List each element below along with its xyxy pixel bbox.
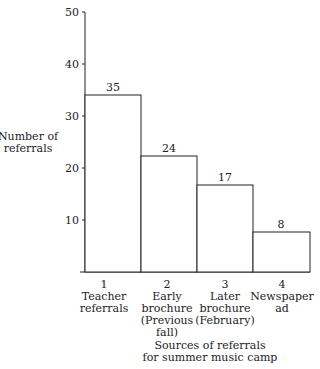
bar-teacher-referrals xyxy=(85,95,141,272)
bar-chart: 50 40 30 20 10 Number of referrals 35 24… xyxy=(0,0,320,369)
y-tick-label: 30 xyxy=(65,110,79,123)
category-label-2: 2 Early brochure (Previous fall) xyxy=(141,278,194,339)
y-axis-title: Number of referrals xyxy=(0,130,59,155)
x-axis-title: Sources of referrals for summer music ca… xyxy=(143,339,278,364)
bars: 35 24 17 8 xyxy=(85,81,310,272)
y-tick-label: 10 xyxy=(65,214,79,227)
svg-text:fall): fall) xyxy=(156,326,178,339)
category-label-3: 3 Later brochure (February) xyxy=(195,278,255,327)
bar-newspaper-ad xyxy=(253,232,310,272)
bar-later-brochure xyxy=(197,185,253,272)
svg-text:referrals: referrals xyxy=(4,142,53,155)
svg-text:referrals: referrals xyxy=(80,302,129,315)
y-tick-label: 20 xyxy=(65,162,79,175)
y-tick-label: 40 xyxy=(65,58,79,71)
category-label-1: 1 Teacher referrals xyxy=(80,278,129,315)
bar-value-label: 24 xyxy=(162,142,176,155)
bar-early-brochure xyxy=(141,156,197,272)
bar-value-label: 35 xyxy=(106,81,120,94)
svg-text:for summer music camp: for summer music camp xyxy=(143,351,278,364)
category-label-4: 4 Newspaper ad xyxy=(250,278,314,315)
svg-text:ad: ad xyxy=(275,302,289,315)
bar-value-label: 8 xyxy=(278,218,285,231)
y-tick-label: 50 xyxy=(65,6,79,19)
bar-value-label: 17 xyxy=(218,171,232,184)
y-ticks: 50 40 30 20 10 xyxy=(65,6,85,227)
svg-text:(February): (February) xyxy=(195,314,255,327)
